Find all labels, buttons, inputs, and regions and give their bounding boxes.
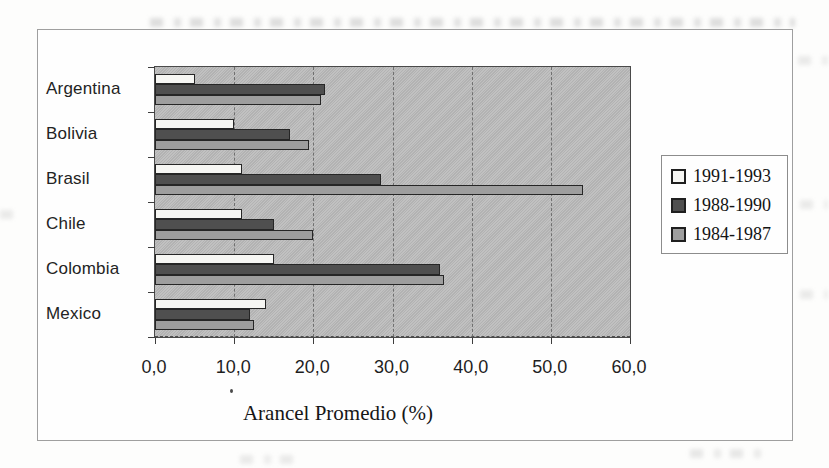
bar-brasil-1991-1993 [155, 164, 242, 175]
x-tick-mark-20 [313, 338, 314, 344]
bar-chile-1984-1987 [155, 230, 313, 241]
bleedthrough-text-line [0, 210, 22, 219]
x-axis-title: Arancel Promedio (%) [243, 401, 433, 426]
bar-bolivia-1988-1990 [155, 129, 290, 140]
bar-bolivia-1984-1987 [155, 140, 309, 151]
x-tick-label-0: 0,0 [141, 357, 166, 378]
x-tick-label-30: 30,0 [374, 357, 409, 378]
legend-swatch-1988-1990 [671, 198, 686, 213]
x-tick-label-40: 40,0 [453, 357, 488, 378]
legend-label-1988-1990: 1988-1990 [693, 195, 771, 216]
bar-colombia-1988-1990 [155, 264, 440, 275]
bar-argentina-1991-1993 [155, 74, 195, 85]
bleedthrough-text-line [240, 455, 296, 464]
x-tick-mark-50 [551, 338, 552, 344]
bleedthrough-text-line [800, 290, 828, 299]
chart-frame: ArgentinaBoliviaBrasilChileColombiaMexic… [37, 29, 793, 441]
category-label-colombia: Colombia [46, 246, 150, 291]
legend-entry-1988-1990: 1988-1990 [671, 195, 778, 215]
bar-mexico-1984-1987 [155, 320, 254, 331]
bar-brasil-1984-1987 [155, 185, 583, 196]
category-label-argentina: Argentina [46, 66, 150, 111]
bar-colombia-1984-1987 [155, 275, 444, 286]
x-tick-label-60: 60,0 [611, 357, 646, 378]
gridline-40 [472, 67, 473, 337]
bleedthrough-text-line [800, 200, 828, 209]
bar-mexico-1988-1990 [155, 309, 250, 320]
legend: 1991-19931988-19901984-1987 [661, 155, 788, 254]
legend-label-1984-1987: 1984-1987 [693, 224, 771, 245]
legend-entry-1991-1993: 1991-1993 [671, 166, 778, 186]
x-tick-mark-40 [472, 338, 473, 344]
category-label-bolivia: Bolivia [46, 111, 150, 156]
legend-swatch-1991-1993 [671, 169, 686, 184]
bar-bolivia-1991-1993 [155, 119, 234, 130]
x-tick-label-10: 10,0 [216, 357, 251, 378]
gridline-30 [393, 67, 394, 337]
category-label-brasil: Brasil [46, 156, 150, 201]
bleedthrough-text-line [150, 18, 795, 27]
legend-label-1991-1993: 1991-1993 [693, 166, 771, 187]
category-label-chile: Chile [46, 201, 150, 246]
legend-swatch-1984-1987 [671, 227, 686, 242]
y-tick-mark-6 [148, 337, 155, 338]
bar-brasil-1988-1990 [155, 174, 381, 185]
x-tick-mark-30 [393, 338, 394, 344]
x-tick-label-20: 20,0 [295, 357, 330, 378]
bar-colombia-1991-1993 [155, 254, 274, 265]
category-label-mexico: Mexico [46, 291, 150, 336]
bar-argentina-1984-1987 [155, 95, 321, 106]
gridline-20 [313, 67, 314, 337]
bar-chile-1991-1993 [155, 209, 242, 220]
plot-area [154, 66, 631, 338]
bar-chile-1988-1990 [155, 219, 274, 230]
scan-artifact-dot [230, 389, 233, 393]
x-tick-mark-60 [630, 338, 631, 344]
x-tick-mark-0 [155, 338, 156, 344]
bleedthrough-text-line [690, 449, 762, 458]
gridline-10 [234, 67, 235, 337]
bleedthrough-text-line [798, 56, 828, 65]
x-tick-label-50: 50,0 [532, 357, 567, 378]
scanned-page: { "page": { "kind": "scanned document fi… [0, 0, 829, 468]
gridline-50 [551, 67, 552, 337]
bar-mexico-1991-1993 [155, 299, 266, 310]
x-tick-mark-10 [234, 338, 235, 344]
bar-argentina-1988-1990 [155, 84, 325, 95]
legend-entry-1984-1987: 1984-1987 [671, 224, 778, 244]
